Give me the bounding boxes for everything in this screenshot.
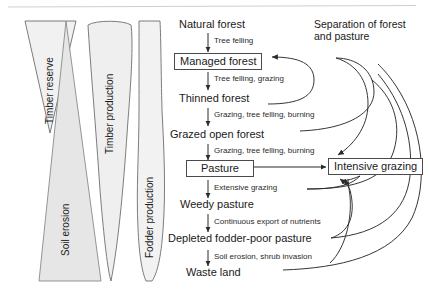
node-intensive-grazing[interactable]: Intensive grazing <box>328 158 423 175</box>
shape-label-timber-production: Timber production <box>104 48 115 154</box>
edge-label-extensive-grazing: Extensive grazing <box>214 183 277 192</box>
node-depleted-fodder-poor-pasture: Depleted fodder-poor pasture <box>168 232 312 244</box>
node-pasture[interactable]: Pasture <box>186 160 254 177</box>
node-waste-land: Waste land <box>186 266 241 278</box>
edge-label-soil-erosion-shrub-invasion: Soil erosion, shrub invasion <box>214 252 312 261</box>
edge-label-grazing-tree-felling-burning-2: Grazing, tree felling, burning <box>214 146 315 155</box>
node-managed-forest[interactable]: Managed forest <box>174 53 262 70</box>
annotation-separation-of-forest-and-pasture: Separation of forest and pasture <box>314 18 426 42</box>
curve-depleted-to-intensive <box>331 74 411 238</box>
curve-weedy-to-intensive-tail <box>307 176 360 189</box>
edge-label-tree-felling: Tree felling <box>214 36 253 45</box>
node-weedy-pasture: Weedy pasture <box>180 198 254 210</box>
shape-label-fodder-production: Fodder production <box>144 148 155 258</box>
curve-grazed-to-intensive <box>300 58 374 155</box>
edge-label-grazing-tree-felling-burning-1: Grazing, tree felling, burning <box>214 110 315 119</box>
shape-label-soil-erosion: Soil erosion <box>60 166 71 256</box>
curve-waste-to-intensive-tail <box>330 179 350 263</box>
node-grazed-open-forest: Grazed open forest <box>170 128 264 140</box>
node-natural-forest: Natural forest <box>179 18 245 30</box>
scan-rule-top <box>8 6 416 8</box>
diagram-canvas: Timber reserve Soil erosion Timber produ… <box>0 0 429 292</box>
edge-label-tree-felling-grazing: Tree felling, grazing <box>214 74 284 83</box>
edge-label-continuous-export-of-nutrients: Continuous export of nutrients <box>214 217 321 226</box>
node-thinned-forest: Thinned forest <box>179 92 249 104</box>
shape-label-timber-reserve: Timber reserve <box>44 38 55 124</box>
